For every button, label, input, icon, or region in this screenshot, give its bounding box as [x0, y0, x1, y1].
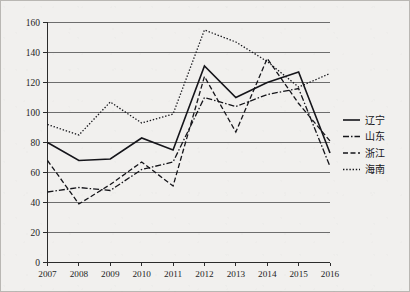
legend-label-2: 浙江	[365, 148, 385, 159]
y-label-140: 140	[26, 48, 41, 58]
x-label-2012: 2012	[195, 269, 214, 279]
x-label-2016: 2016	[321, 269, 340, 279]
x-label-2007: 2007	[38, 269, 57, 279]
y-label-0: 0	[35, 258, 40, 268]
x-label-2014: 2014	[258, 269, 277, 279]
y-label-160: 160	[26, 18, 41, 28]
y-tickmarks	[43, 23, 47, 263]
x-label-2011: 2011	[164, 269, 182, 279]
y-label-120: 120	[26, 78, 41, 88]
x-axis-labels: 2007 2008 2009 2010 2011 2012 2013 2014 …	[38, 269, 339, 279]
legend-label-0: 辽宁	[365, 114, 385, 126]
legend-label-3: 海南	[365, 163, 385, 175]
series-line-0	[48, 66, 331, 161]
legend-label-1: 山东	[365, 130, 385, 142]
x-label-2010: 2010	[133, 269, 152, 279]
y-label-100: 100	[26, 108, 41, 118]
x-label-2009: 2009	[101, 269, 120, 279]
chart-legend: 辽宁山东浙江海南	[343, 114, 385, 176]
y-axis-labels: 160 140 120 100 80 60 40 20 0	[26, 18, 41, 268]
x-label-2013: 2013	[227, 269, 246, 279]
chart-figure: 160 140 120 100 80 60 40 20 0 2007 200	[0, 0, 410, 292]
y-label-20: 20	[31, 228, 41, 238]
y-label-60: 60	[31, 168, 41, 178]
x-label-2015: 2015	[290, 269, 309, 279]
line-chart: 160 140 120 100 80 60 40 20 0 2007 200	[0, 0, 410, 292]
series-line-1	[48, 89, 331, 193]
data-series-group	[48, 30, 331, 204]
y-label-40: 40	[31, 198, 41, 208]
figure-border	[1, 1, 410, 292]
y-label-80: 80	[31, 138, 41, 148]
x-label-2008: 2008	[70, 269, 89, 279]
gridlines	[47, 23, 330, 233]
series-line-2	[48, 59, 331, 205]
